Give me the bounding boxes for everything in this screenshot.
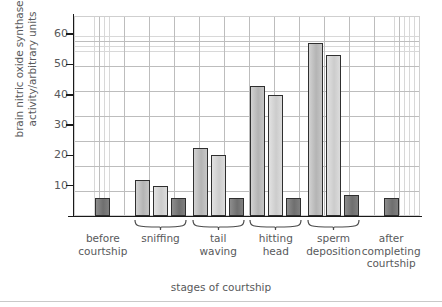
brace-hitting-head (249, 220, 302, 231)
y-tick-mark (66, 64, 73, 66)
bottom-divider (0, 301, 442, 302)
y-tick-mark (66, 185, 73, 187)
y-tick-mark (66, 33, 73, 35)
y-tick-mark (66, 155, 73, 157)
bar-sniffing-measure-2 (153, 186, 168, 216)
bar-hitting-head-control (286, 198, 301, 216)
bar-sperm-deposition-control (344, 195, 359, 216)
bar-sperm-deposition-measure-1 (308, 43, 323, 216)
y-tick-label: 60 (42, 27, 68, 40)
y-tick-label: 30 (42, 118, 68, 131)
plot-area (74, 16, 420, 216)
y-axis-tick-labels: 102030405060 (42, 0, 68, 307)
category-label-line: courtship (354, 257, 428, 270)
y-axis-title: brain nitric oxide synthase activity/arb… (13, 0, 39, 169)
bar-after-completing-courtship-control (384, 198, 399, 216)
bar-tail-waving-measure-1 (193, 148, 208, 216)
bar-before-courtship-control (95, 198, 110, 216)
bar-sniffing-measure-1 (135, 180, 150, 216)
category-label-line: after (354, 232, 428, 245)
y-axis-line (73, 14, 75, 217)
brace-sperm-deposition (307, 220, 360, 231)
bar-tail-waving-measure-2 (211, 155, 226, 216)
chart-figure: brain nitric oxide synthase activity/arb… (0, 0, 442, 307)
category-label-line: completing (354, 245, 428, 258)
brace-sniffing (134, 220, 187, 231)
bar-hitting-head-measure-1 (250, 86, 265, 216)
y-tick-mark (66, 94, 73, 96)
bar-hitting-head-measure-2 (268, 95, 283, 216)
bar-sniffing-control (171, 198, 186, 216)
x-axis-title: stages of courtship (0, 281, 442, 293)
bar-tail-waving-control (229, 198, 244, 216)
x-axis-line (68, 216, 422, 218)
y-tick-label: 50 (42, 57, 68, 70)
bar-series-container (74, 16, 420, 216)
category-label-after-completing-courtship: aftercompletingcourtship (354, 232, 428, 270)
brace-tail-waving (192, 220, 245, 231)
y-tick-label: 20 (42, 148, 68, 161)
y-tick-mark (66, 124, 73, 126)
bar-sperm-deposition-measure-2 (326, 55, 341, 216)
y-tick-label: 10 (42, 179, 68, 192)
category-label-line: courtship (66, 245, 140, 258)
y-tick-label: 40 (42, 88, 68, 101)
